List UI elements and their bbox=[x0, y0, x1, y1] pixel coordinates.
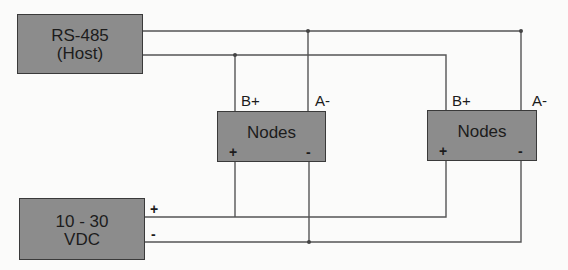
node2-a-minus-label: A- bbox=[532, 92, 547, 109]
junction-dot bbox=[306, 29, 310, 33]
node2-box: Nodes + - bbox=[427, 110, 537, 161]
power-label-line1: 10 - 30 bbox=[20, 213, 144, 231]
node1-a-minus-label: A- bbox=[315, 92, 330, 109]
junction-dot bbox=[307, 240, 311, 244]
power-label-line2: VDC bbox=[20, 231, 144, 249]
rs485-host-box: RS-485 (Host) bbox=[17, 14, 143, 74]
node1-minus-label: - bbox=[306, 144, 311, 160]
node1-b-plus-label: B+ bbox=[241, 92, 260, 109]
node1-box: Nodes + - bbox=[217, 111, 326, 162]
power-minus-label: - bbox=[151, 226, 156, 242]
host-label-line2: (Host) bbox=[18, 45, 142, 63]
host-label-line1: RS-485 bbox=[18, 27, 142, 45]
junction-dot bbox=[519, 29, 523, 33]
node2-plus-label: + bbox=[439, 143, 447, 159]
power-plus-label: + bbox=[150, 201, 158, 217]
node2-minus-label: - bbox=[518, 143, 523, 159]
node1-plus-label: + bbox=[229, 144, 237, 160]
power-supply-box: 10 - 30 VDC bbox=[19, 198, 145, 260]
node2-b-plus-label: B+ bbox=[452, 92, 471, 109]
junction-dot bbox=[233, 53, 237, 57]
node1-label: Nodes bbox=[218, 124, 325, 142]
node2-label: Nodes bbox=[428, 123, 536, 141]
